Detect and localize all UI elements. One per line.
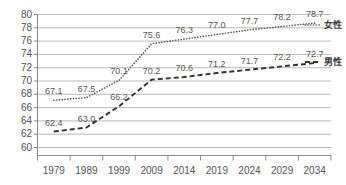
data-label-female: 77.7 xyxy=(236,17,262,26)
x-tick-label: 2019 xyxy=(201,165,233,176)
x-tick-label: 1989 xyxy=(70,165,102,176)
data-label-male: 66.2 xyxy=(106,93,132,102)
y-tick-label: 78 xyxy=(10,23,32,33)
x-tick-label: 2009 xyxy=(136,165,168,176)
legend-item-female: 女性 xyxy=(324,21,342,30)
data-label-male: 62.4 xyxy=(41,119,67,128)
data-label-female: 76.3 xyxy=(171,26,197,35)
y-tick-label: 66 xyxy=(10,103,32,113)
data-label-female: 78.7 xyxy=(302,10,328,19)
data-label-female: 70.1 xyxy=(106,67,132,76)
y-tick-label: 60 xyxy=(10,143,32,153)
x-tick-label: 2029 xyxy=(266,165,298,176)
y-tick-label: 72 xyxy=(10,63,32,73)
data-label-male: 71.2 xyxy=(204,60,230,69)
y-tick-label: 70 xyxy=(10,76,32,86)
y-tick-label: 64 xyxy=(10,116,32,126)
x-tick-label: 2024 xyxy=(233,165,265,176)
x-tick-label: 1999 xyxy=(103,165,135,176)
data-label-male: 63.0 xyxy=(73,115,99,124)
y-tick-label: 76 xyxy=(10,36,32,46)
data-label-male: 72.2 xyxy=(269,53,295,62)
data-label-female: 78.2 xyxy=(269,13,295,22)
data-label-female: 67.1 xyxy=(41,87,67,96)
x-tick-label: 1979 xyxy=(38,165,70,176)
data-label-male: 70.6 xyxy=(171,64,197,73)
data-label-female: 77.0 xyxy=(204,21,230,30)
x-tick-label: 2014 xyxy=(168,165,200,176)
y-tick-label: 80 xyxy=(10,10,32,20)
x-tick-label: 2034 xyxy=(299,165,331,176)
data-label-female: 75.6 xyxy=(139,31,165,40)
y-tick-label: 74 xyxy=(10,49,32,59)
legend-item-male: 男性 xyxy=(324,58,342,67)
life-expectancy-line-chart: 8078767472706866646260 19791989199920092… xyxy=(0,0,346,185)
data-label-male: 70.2 xyxy=(139,67,165,76)
y-tick-label: 68 xyxy=(10,89,32,99)
y-tick-label: 62 xyxy=(10,129,32,139)
data-label-male: 71.7 xyxy=(236,57,262,66)
data-label-female: 67.5 xyxy=(73,85,99,94)
x-axis-ticks xyxy=(38,156,332,161)
